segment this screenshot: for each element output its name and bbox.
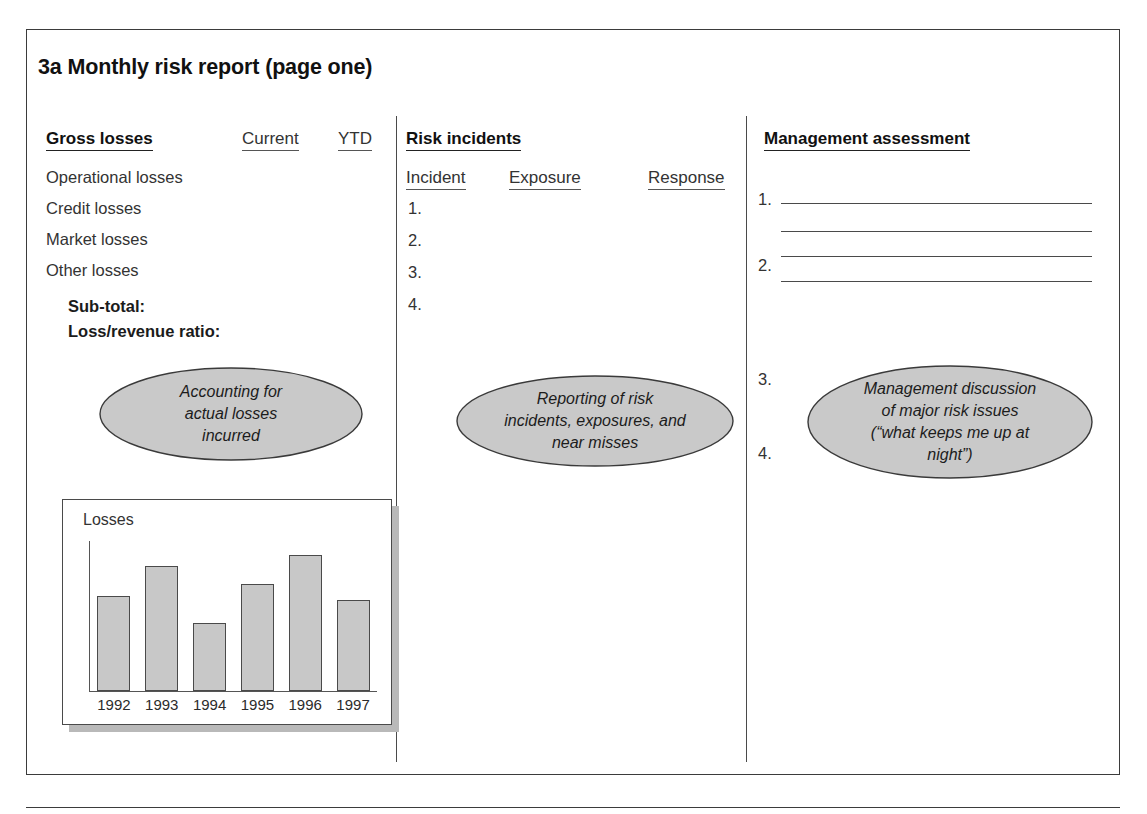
chart-plot-area (89, 541, 377, 692)
management-assessment-heading: Management assessment (764, 129, 970, 151)
callout-reporting: Reporting of risk incidents, exposures, … (455, 374, 735, 468)
callout-management: Management discussion of major risk issu… (806, 364, 1094, 480)
risk-incidents-item-3: 3. (408, 263, 422, 282)
gross-losses-row-operational: Operational losses (46, 168, 183, 187)
chart-x-tick: 1996 (282, 696, 328, 713)
gross-losses-row-credit: Credit losses (46, 199, 141, 218)
gross-losses-col-current: Current (242, 129, 299, 151)
management-assessment-item-3: 3. (758, 370, 772, 389)
column-divider-2 (746, 116, 747, 762)
risk-incidents-item-1: 1. (408, 199, 422, 218)
risk-incidents-col-incident: Incident (406, 168, 466, 190)
losses-bar-chart: Losses 199219931994199519961997 (62, 499, 392, 725)
gross-losses-subtotal-label: Sub-total: (68, 297, 145, 316)
assessment-rule-3 (781, 256, 1092, 257)
chart-x-tick: 1992 (91, 696, 137, 713)
management-assessment-item-1: 1. (758, 190, 772, 209)
risk-incidents-item-4: 4. (408, 295, 422, 314)
chart-x-tick: 1994 (187, 696, 233, 713)
risk-incidents-col-exposure: Exposure (509, 168, 581, 190)
chart-bar (241, 584, 274, 691)
gross-losses-heading: Gross losses (46, 129, 153, 151)
assessment-rule-1 (781, 203, 1092, 204)
chart-y-axis-label: Losses (83, 511, 134, 529)
chart-bar (289, 555, 322, 691)
gross-losses-row-other: Other losses (46, 261, 139, 280)
chart-bar (145, 566, 178, 691)
chart-bars (90, 542, 377, 691)
callout-accounting: Accounting for actual losses incurred (98, 366, 364, 462)
risk-incidents-heading: Risk incidents (406, 129, 521, 151)
risk-incidents-item-2: 2. (408, 231, 422, 250)
figure-title: 3a Monthly risk report (page one) (38, 55, 372, 80)
assessment-rule-2 (781, 231, 1092, 232)
chart-x-tick-labels: 199219931994199519961997 (90, 696, 377, 713)
chart-bar (97, 596, 130, 691)
management-assessment-item-2: 2. (758, 256, 772, 275)
assessment-rule-4 (781, 281, 1092, 282)
chart-x-axis (89, 691, 377, 692)
chart-bar (193, 623, 226, 691)
chart-x-tick: 1993 (139, 696, 185, 713)
management-assessment-item-4: 4. (758, 444, 772, 463)
chart-x-tick: 1995 (234, 696, 280, 713)
gross-losses-col-ytd: YTD (338, 129, 372, 151)
chart-bar (337, 600, 370, 691)
gross-losses-ratio-label: Loss/revenue ratio: (68, 322, 220, 341)
bottom-rule (26, 807, 1120, 808)
chart-x-tick: 1997 (330, 696, 376, 713)
gross-losses-row-market: Market losses (46, 230, 148, 249)
risk-incidents-col-response: Response (648, 168, 725, 190)
